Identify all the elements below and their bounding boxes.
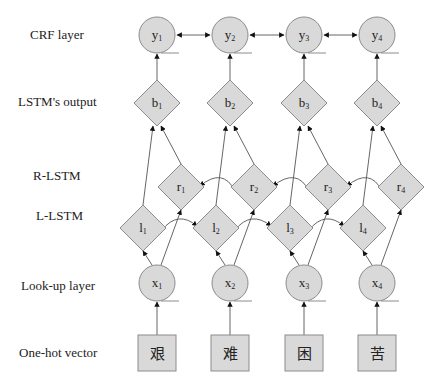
edge-arrow xyxy=(290,251,299,265)
edge-arrow xyxy=(216,126,226,205)
onehot-char-4: 苦 xyxy=(370,345,385,363)
recurrent-edge xyxy=(200,178,235,191)
edge-arrow xyxy=(234,210,254,265)
edge-arrow xyxy=(161,210,181,265)
edge-arrow xyxy=(308,210,328,265)
edge-arrow xyxy=(381,210,401,265)
bilstm-crf-diagram: y1b1r1l1x1艰y2b2r2l2x2难y3b3r3l3x3困y4b4r4l… xyxy=(0,0,438,385)
edge-arrow xyxy=(143,251,152,265)
nodes: y1b1r1l1x1艰y2b2r2l2x2难y3b3r3l3x3困y4b4r4l… xyxy=(120,17,424,371)
edge-arrow xyxy=(143,126,153,205)
edge-arrow xyxy=(216,251,225,265)
recurrent-edge xyxy=(309,219,344,230)
edge-arrow xyxy=(363,251,372,265)
onehot-char-2: 难 xyxy=(223,345,238,363)
recurrent-edge xyxy=(273,178,309,191)
recurrent-edge xyxy=(347,178,382,191)
edge-arrow xyxy=(381,126,401,164)
recurrent-edge xyxy=(162,219,197,230)
edge-arrow xyxy=(161,126,181,164)
edge-arrow xyxy=(290,126,300,205)
edge-arrow xyxy=(308,126,328,164)
edge-arrow xyxy=(234,126,254,164)
recurrent-edge xyxy=(235,219,271,230)
onehot-char-1: 艰 xyxy=(150,345,165,363)
edge-arrow xyxy=(363,126,373,205)
onehot-char-3: 困 xyxy=(297,345,312,363)
